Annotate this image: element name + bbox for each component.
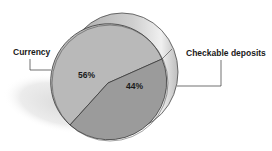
checkable-leader-line (177, 60, 221, 86)
currency-leader-line (30, 59, 51, 70)
checkable-percent-label: 44% (126, 81, 143, 91)
currency-percent-label: 56% (78, 70, 95, 80)
currency-label: Currency (13, 47, 51, 57)
checkable-label: Checkable deposits (186, 48, 266, 58)
pie-chart: 56% 44% Currency Checkable deposits (0, 0, 272, 151)
